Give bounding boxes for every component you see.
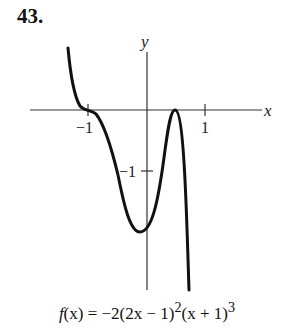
tick-label-y-neg1: −1 [119, 163, 136, 180]
x-axis-label: x [263, 101, 272, 120]
caption-part2: (x + 1) [182, 304, 228, 323]
tick-label-x-neg1: −1 [76, 119, 93, 136]
tick-label-x-1: 1 [201, 119, 209, 136]
caption-sup1: 2 [175, 299, 182, 315]
function-graph: x y −1 1 −1 [0, 0, 294, 333]
caption-part1: (x) = −2(2x − 1) [64, 304, 175, 323]
caption-sup2: 3 [228, 299, 235, 315]
y-axis-label: y [139, 32, 149, 51]
function-caption: f(x) = −2(2x − 1)2(x + 1)3 [0, 299, 294, 324]
